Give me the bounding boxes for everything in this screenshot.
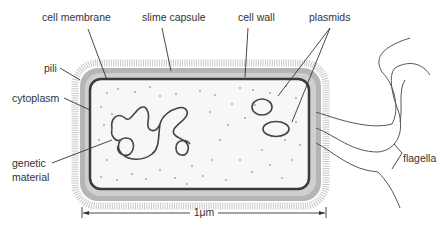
label-cell-membrane: cell membrane xyxy=(42,11,111,23)
cell-membrane xyxy=(90,79,309,189)
label-flagella: flagella xyxy=(403,152,436,164)
label-pili: pili xyxy=(44,62,57,74)
label-genetic-material-line2: material xyxy=(12,171,49,183)
label-slime-capsule: slime capsule xyxy=(142,11,206,23)
label-plasmids: plasmids xyxy=(309,11,350,23)
label-cell-wall: cell wall xyxy=(238,11,275,23)
label-cytoplasm: cytoplasm xyxy=(12,92,60,104)
scale-bar-label: 1μm xyxy=(194,206,215,218)
flagella xyxy=(316,38,430,208)
label-genetic-material-line1: genetic xyxy=(12,157,46,169)
bacterial-cell-diagram: 1μm cell membrane slime capsule cell wal… xyxy=(0,0,443,227)
